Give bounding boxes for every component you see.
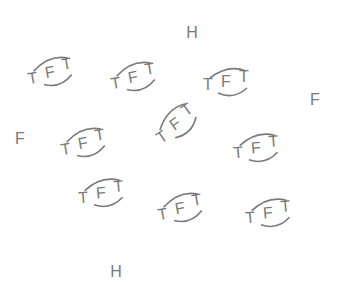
atom-right: T bbox=[113, 178, 124, 195]
atom-center: F bbox=[221, 74, 231, 90]
tft-molecule: T F T bbox=[228, 126, 287, 171]
atom-left: T bbox=[203, 77, 213, 93]
atom-left: T bbox=[233, 144, 244, 161]
atom-right: T bbox=[280, 198, 291, 215]
atom-left: T bbox=[78, 189, 89, 206]
atom-left: T bbox=[245, 209, 256, 226]
atom-center: F bbox=[262, 205, 273, 222]
stray-atom: H bbox=[110, 264, 122, 280]
tft-molecule: T F T bbox=[73, 171, 132, 216]
tft-molecule: T F T bbox=[200, 62, 256, 102]
atom-center: F bbox=[95, 185, 106, 202]
tft-molecule: T F T bbox=[240, 191, 299, 236]
stray-atom: F bbox=[15, 131, 25, 147]
atom-center: F bbox=[250, 140, 261, 157]
tft-molecule: T F T bbox=[21, 47, 83, 96]
tft-molecule: T F T bbox=[54, 118, 116, 167]
atom-right: T bbox=[239, 69, 249, 85]
captcha-canvas: H F F H T F T T F T T F T T F T T F T T … bbox=[0, 0, 337, 293]
tft-molecule: T F T bbox=[104, 52, 166, 101]
tft-molecule: T F T bbox=[151, 183, 213, 232]
atom-right: T bbox=[268, 133, 279, 150]
stray-atom: F bbox=[310, 92, 320, 108]
stray-atom: H bbox=[186, 25, 198, 41]
